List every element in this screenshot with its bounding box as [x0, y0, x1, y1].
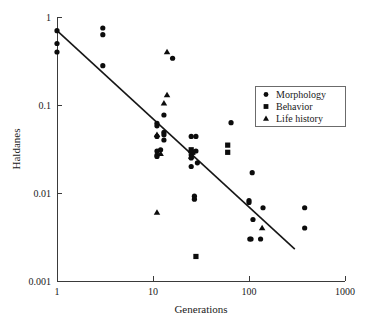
legend: MorphologyBehaviorLife history: [255, 86, 345, 126]
data-point: [100, 25, 105, 30]
data-point: [161, 137, 166, 142]
data-point: [225, 143, 230, 148]
data-point: [189, 134, 194, 139]
x-tick-label: 1: [55, 286, 60, 297]
data-point: [246, 200, 251, 205]
data-point: [161, 132, 166, 137]
legend-label-morphology: Morphology: [276, 89, 326, 100]
data-points-group: [54, 25, 307, 259]
data-point: [154, 123, 159, 128]
data-point: [225, 150, 230, 155]
data-point: [170, 56, 175, 61]
data-point: [228, 120, 233, 125]
x-axis-title: Generations: [174, 303, 227, 315]
data-point: [193, 134, 198, 139]
data-point: [54, 28, 59, 33]
data-point: [248, 236, 253, 241]
data-point: [302, 225, 307, 230]
y-tick-label: 1: [46, 12, 51, 23]
x-tick-label: 10: [148, 286, 158, 297]
y-tick-label: 0.1: [39, 100, 52, 111]
legend-label-behavior: Behavior: [276, 101, 313, 112]
data-point: [164, 49, 171, 55]
data-point: [54, 41, 59, 46]
data-point: [302, 205, 307, 210]
regression-line: [57, 31, 295, 250]
data-point: [161, 112, 166, 117]
legend-marker-square: [264, 104, 269, 109]
data-point: [250, 217, 255, 222]
legend-label-life-history: Life history: [276, 113, 323, 124]
data-point: [192, 197, 197, 202]
data-point: [193, 254, 198, 259]
data-point: [195, 160, 200, 165]
data-point: [189, 164, 194, 169]
data-point: [250, 170, 255, 175]
data-point: [259, 225, 266, 231]
data-point: [258, 236, 263, 241]
scatter-plot: 1101001000 10.10.010.001 Generations Hal…: [0, 0, 366, 324]
data-point: [164, 92, 171, 98]
data-point: [161, 100, 168, 106]
data-point: [154, 209, 161, 215]
series-morphology: [54, 25, 307, 241]
data-point: [154, 131, 161, 137]
x-tick-label: 100: [242, 286, 257, 297]
y-tick-label: 0.001: [29, 276, 52, 287]
x-axis-ticks: 1101001000: [55, 276, 356, 297]
legend-marker-circle: [264, 92, 269, 97]
data-point: [54, 49, 59, 54]
data-point: [100, 32, 105, 37]
data-point: [260, 205, 265, 210]
x-tick-label: 1000: [335, 286, 355, 297]
y-axis-title: Haldanes: [10, 129, 22, 170]
regression-line-group: [57, 31, 295, 250]
y-tick-label: 0.01: [34, 188, 52, 199]
figure-container: 1101001000 10.10.010.001 Generations Hal…: [0, 0, 366, 324]
data-point: [100, 63, 105, 68]
axes-group: [57, 17, 345, 281]
